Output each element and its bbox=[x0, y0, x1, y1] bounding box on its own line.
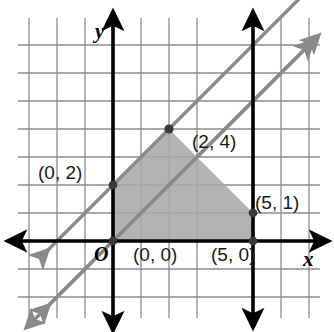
dot-0-2 bbox=[109, 181, 118, 190]
point-label-0-0: (0, 0) bbox=[133, 245, 177, 264]
point-label-5-1: (5, 1) bbox=[255, 193, 299, 212]
dot-0-0 bbox=[109, 237, 118, 246]
dot-2-4 bbox=[164, 124, 173, 133]
x-axis-label: x bbox=[303, 249, 314, 270]
graph-figure: (0, 2) (2, 4) (5, 1) (0, 0) (5, 0) O y x bbox=[0, 0, 334, 332]
point-label-0-2: (0, 2) bbox=[38, 163, 82, 182]
point-label-2-4: (2, 4) bbox=[192, 132, 236, 151]
origin-label: O bbox=[94, 244, 108, 264]
y-axis-label: y bbox=[95, 21, 104, 42]
point-label-5-0: (5, 0) bbox=[211, 245, 255, 264]
